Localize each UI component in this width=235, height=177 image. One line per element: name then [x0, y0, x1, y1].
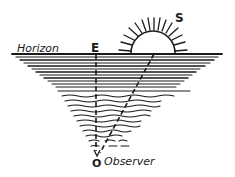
observer-marker: O [92, 157, 101, 170]
horizon-observer-diagram: Horizon E S O Observer [0, 0, 235, 177]
observer-label: Observer [104, 155, 156, 168]
horizon-label: Horizon [17, 42, 59, 55]
sun-semicircle [131, 31, 175, 53]
observer-arrow [94, 150, 100, 156]
sun-label: S [175, 11, 184, 25]
east-label: E [91, 41, 99, 55]
water-lines [12, 54, 222, 91]
